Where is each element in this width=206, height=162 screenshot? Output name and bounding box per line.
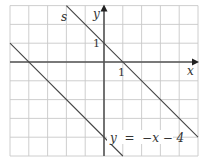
x-tick-label-1: 1	[118, 66, 125, 79]
coordinate-graph: x y 1 1 s y = −x − 4	[0, 0, 206, 162]
y-tick-label-1: 1	[93, 37, 100, 50]
equation-label: y = −x − 4	[109, 131, 184, 145]
line-s-label: s	[61, 10, 67, 24]
line-s	[66, 6, 198, 138]
x-axis-label: x	[187, 64, 194, 78]
y-axis-label: y	[92, 7, 100, 21]
